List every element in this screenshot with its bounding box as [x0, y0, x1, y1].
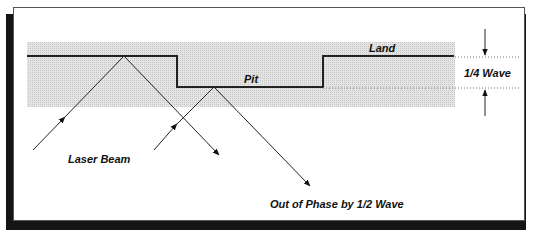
laser-beam-label: Laser Beam: [68, 153, 131, 165]
laser-beam-incident-pit: [154, 126, 175, 150]
quarter-wave-label: 1/4 Wave: [464, 67, 511, 79]
land-label: Land: [369, 42, 396, 54]
pit-label: Pit: [244, 73, 259, 85]
out-of-phase-label: Out of Phase by 1/2 Wave: [270, 198, 404, 210]
laser-beam-incident-land: [33, 119, 63, 150]
diagram-canvas: Land Pit 1/4 Wave Laser Beam Out of Phas…: [0, 0, 533, 239]
disc-surface-band: [27, 42, 193, 107]
